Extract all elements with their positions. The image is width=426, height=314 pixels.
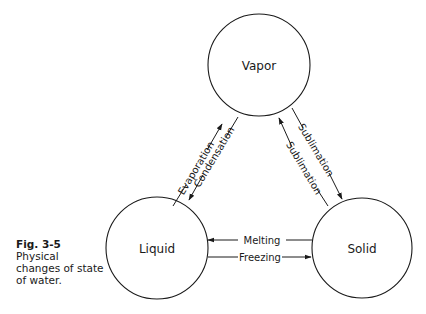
caption-text: Physical changes of state of water. — [16, 250, 104, 286]
melting-label: Melting — [244, 235, 281, 246]
solid-label: Solid — [347, 242, 376, 256]
liquid-label: Liquid — [139, 242, 175, 256]
vapor-node: Vapor — [208, 14, 310, 116]
freezing-arrow: Freezing — [208, 252, 311, 263]
melting-arrow: Melting — [208, 235, 312, 246]
freezing-label: Freezing — [239, 252, 281, 263]
liquid-node: Liquid — [106, 197, 208, 299]
figure-number: Fig. 3-5 — [16, 238, 61, 250]
vapor-label: Vapor — [242, 59, 277, 73]
solid-node: Solid — [312, 198, 412, 298]
figure-caption: Fig. 3-5 Physical changes of state of wa… — [16, 238, 106, 286]
